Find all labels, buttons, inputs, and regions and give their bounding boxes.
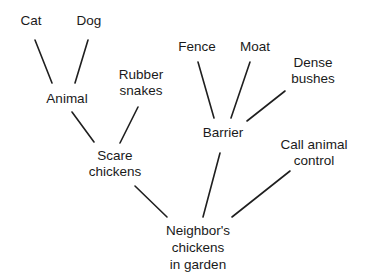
edge-cat-animal <box>35 40 52 83</box>
node-label: bushes <box>291 71 335 87</box>
node-rubber-snakes: Rubber snakes <box>119 67 163 99</box>
node-call-animal-control: Call animal control <box>281 137 348 169</box>
edge-animal-scare <box>72 112 94 142</box>
node-label: Dense <box>291 55 335 71</box>
edge-rubber-scare <box>120 107 138 143</box>
node-moat: Moat <box>240 39 270 55</box>
node-cat: Cat <box>20 13 41 29</box>
edge-call-neighbor <box>232 171 290 217</box>
node-label: chickens <box>89 164 142 180</box>
edge-bushes-barrier <box>247 91 285 121</box>
node-label: chickens <box>166 239 230 256</box>
node-label: Neighbor's <box>166 222 230 239</box>
node-label: Fence <box>178 39 216 55</box>
node-scare-chickens: Scare chickens <box>89 148 142 180</box>
edge-dog-animal <box>75 40 88 83</box>
node-label: Barrier <box>203 125 244 141</box>
node-label: control <box>281 153 348 169</box>
node-neighbors-chickens: Neighbor's chickens in garden <box>166 222 230 273</box>
edge-scare-neighbor <box>135 186 167 217</box>
node-label: Cat <box>20 13 41 29</box>
node-label: snakes <box>119 83 163 99</box>
node-label: Moat <box>240 39 270 55</box>
node-dense-bushes: Dense bushes <box>291 55 335 87</box>
node-fence: Fence <box>178 39 216 55</box>
node-label: Dog <box>77 13 102 29</box>
edge-moat-barrier <box>231 62 250 118</box>
node-barrier: Barrier <box>203 125 244 141</box>
node-dog: Dog <box>77 13 102 29</box>
node-animal: Animal <box>46 91 87 107</box>
node-label: Rubber <box>119 67 163 83</box>
node-label: Scare <box>89 148 142 164</box>
node-label: Call animal <box>281 137 348 153</box>
edge-barrier-neighbor <box>203 153 220 217</box>
node-label: in garden <box>166 256 230 273</box>
node-label: Animal <box>46 91 87 107</box>
edge-fence-barrier <box>198 62 214 118</box>
